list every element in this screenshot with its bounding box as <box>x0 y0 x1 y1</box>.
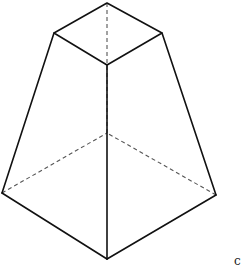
edge-bottom-right <box>107 195 216 259</box>
edge-bottom-left <box>2 193 107 259</box>
edge-left <box>2 33 54 193</box>
top-face <box>54 3 162 65</box>
frustum-diagram <box>0 0 242 265</box>
partial-label: c <box>234 254 241 265</box>
hidden-edge-bottom-right-back <box>107 133 216 195</box>
edge-right <box>162 33 216 195</box>
